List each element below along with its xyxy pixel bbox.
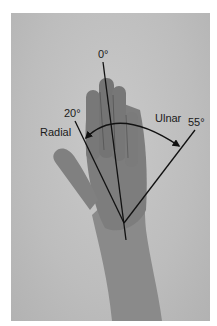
ulnar-angle-label: 55°: [188, 117, 205, 128]
radial-direction-label: Radial: [40, 127, 71, 138]
radial-angle-label: 20°: [64, 108, 81, 119]
ulnar-direction-label: Ulnar: [155, 113, 181, 124]
neutral-angle-label: 0°: [98, 49, 109, 60]
